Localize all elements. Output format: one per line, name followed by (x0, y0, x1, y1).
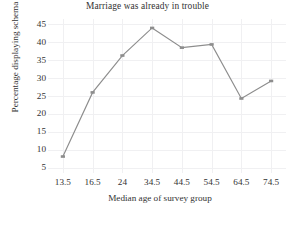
y-tick-label: 40 (24, 38, 46, 47)
y-tick-label: 15 (24, 127, 46, 136)
y-axis-label: Percentage displaying schema (10, 0, 20, 132)
data-point-marker (269, 80, 273, 83)
data-point-marker (120, 54, 124, 57)
series-markers (61, 27, 273, 158)
y-tick-label: 20 (24, 109, 46, 118)
y-tick-label: 35 (24, 56, 46, 65)
data-point-marker (61, 155, 65, 158)
data-point-marker (91, 91, 95, 94)
data-point-marker (210, 43, 214, 46)
plot-area (48, 19, 286, 173)
y-tick-label: 45 (24, 20, 46, 29)
y-tick-label: 10 (24, 145, 46, 154)
chart-figure: Marriage was already in trouble Percenta… (0, 0, 295, 231)
data-point-marker (150, 27, 154, 30)
y-tick-label: 30 (24, 74, 46, 83)
data-point-marker (239, 97, 243, 100)
chart-title: Marriage was already in trouble (0, 1, 295, 11)
data-point-marker (180, 46, 184, 49)
y-tick-label: 25 (24, 92, 46, 101)
x-tick-label: 74.5 (251, 178, 291, 187)
y-tick-label: 5 (24, 163, 46, 172)
data-series (48, 19, 286, 173)
x-axis-label: Median age of survey group (40, 193, 280, 203)
